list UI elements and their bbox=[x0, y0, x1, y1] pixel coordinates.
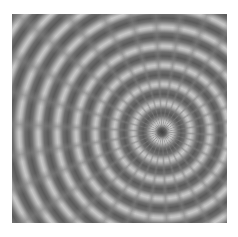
ring-center bbox=[12, 14, 227, 223]
ripple-texture-image bbox=[12, 14, 227, 223]
